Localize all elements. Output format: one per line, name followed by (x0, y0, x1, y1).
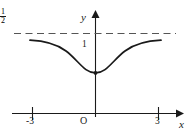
x-axis-label: x (179, 119, 184, 130)
minimum-point-marker (94, 71, 98, 75)
y-axis-label: y (81, 12, 86, 23)
x-tick-label-neg3: -3 (26, 117, 34, 127)
function-graph-figure: y x -3 3 O 1 1 2 (0, 0, 191, 136)
x-tick-label-pos3: 3 (155, 117, 160, 127)
origin-label: O (80, 116, 87, 126)
x-axis-arrowhead (176, 110, 184, 118)
y-tick-label-one: 1 (82, 40, 87, 50)
y-axis-arrowhead (92, 10, 100, 18)
